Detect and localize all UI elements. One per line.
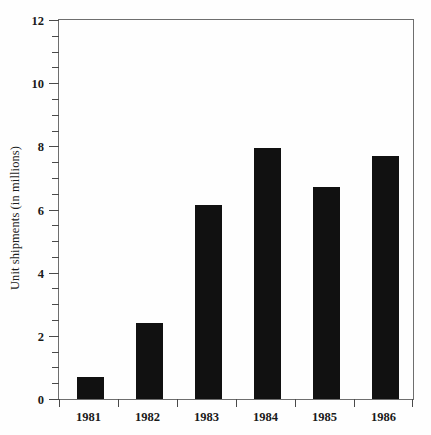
- y-axis-major-tick: 2: [49, 336, 59, 337]
- y-axis-tick-label: 10: [32, 78, 45, 91]
- chart-figure: Unit shipments (in millions) 024681012 1…: [0, 0, 431, 435]
- bar: [372, 156, 399, 399]
- y-axis-minor-tick: [52, 288, 59, 289]
- y-axis-minor-tick: [52, 367, 59, 368]
- y-axis-minor-tick: [52, 194, 59, 195]
- y-axis-title: Unit shipments (in millions): [8, 145, 23, 289]
- y-axis-minor-tick: [52, 352, 59, 353]
- y-axis-minor-tick: [52, 115, 59, 116]
- bar: [195, 205, 222, 399]
- y-axis-tick-label: 2: [38, 330, 44, 343]
- x-axis-tick: [295, 399, 296, 407]
- bar: [254, 148, 281, 399]
- y-axis-tick-label: 6: [38, 204, 44, 217]
- y-axis-tick-label: 8: [38, 141, 44, 154]
- y-axis-minor-tick: [52, 241, 59, 242]
- bar: [136, 323, 163, 399]
- x-axis-tick: [354, 399, 355, 407]
- y-axis-minor-tick: [52, 304, 59, 305]
- plot-area: 024681012 198119821983198419851986: [58, 19, 414, 400]
- y-axis-major-tick: 4: [49, 273, 59, 274]
- y-axis-minor-tick: [52, 162, 59, 163]
- y-axis-minor-tick: [52, 225, 59, 226]
- y-axis-minor-tick: [52, 67, 59, 68]
- x-axis-tick-label: 1986: [371, 411, 396, 424]
- y-axis-minor-tick: [52, 383, 59, 384]
- x-axis-tick-label: 1984: [253, 411, 278, 424]
- y-axis-major-tick: 10: [49, 83, 59, 84]
- y-axis-major-tick: 8: [49, 146, 59, 147]
- x-axis-tick: [59, 399, 60, 407]
- y-axis-title-container: Unit shipments (in millions): [0, 0, 30, 435]
- y-axis-minor-tick: [52, 320, 59, 321]
- x-axis-tick: [118, 399, 119, 407]
- y-axis-tick-label: 0: [38, 394, 44, 407]
- x-axis-tick: [236, 399, 237, 407]
- y-axis-tick-label: 12: [32, 15, 45, 28]
- y-axis-minor-tick: [52, 131, 59, 132]
- y-axis-tick-label: 4: [38, 267, 44, 280]
- x-axis-tick-label: 1985: [312, 411, 337, 424]
- y-axis-minor-tick: [52, 52, 59, 53]
- y-axis-major-tick: 12: [49, 20, 59, 21]
- y-axis-minor-tick: [52, 178, 59, 179]
- x-axis-tick: [177, 399, 178, 407]
- bar: [77, 377, 104, 399]
- y-axis-minor-tick: [52, 257, 59, 258]
- y-axis-major-tick: 6: [49, 210, 59, 211]
- y-axis-minor-tick: [52, 99, 59, 100]
- x-axis-tick-label: 1981: [76, 411, 101, 424]
- y-axis-minor-tick: [52, 36, 59, 37]
- x-axis-tick-label: 1983: [194, 411, 219, 424]
- x-axis-tick: [412, 399, 413, 407]
- y-axis-major-tick: 0: [49, 399, 59, 400]
- bar: [313, 187, 340, 399]
- x-axis-tick-label: 1982: [135, 411, 160, 424]
